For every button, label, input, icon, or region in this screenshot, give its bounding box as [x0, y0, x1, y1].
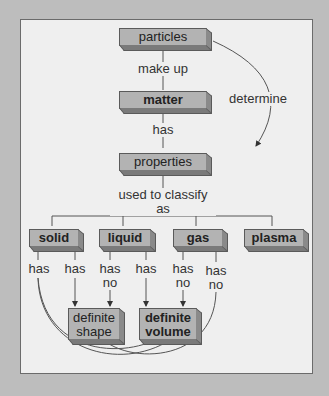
link-gas-has-no-a: hasno: [172, 262, 194, 290]
node-properties: properties: [119, 153, 207, 171]
node-definite-volume: definitevolume: [139, 308, 197, 340]
node-solid: solid: [29, 229, 79, 247]
link-gas-has-no-b-1: has: [206, 263, 227, 278]
link-determine: determine: [228, 92, 288, 106]
link-solid-has-1: has: [28, 262, 50, 276]
node-particles: particles: [119, 28, 207, 46]
node-definite-shape: definiteshape: [68, 308, 120, 340]
link-gas-has-no-a-1: has: [173, 261, 194, 276]
link-make-up: make up: [130, 62, 196, 76]
node-plasma: plasma: [244, 229, 304, 247]
node-definite-volume-line1: definite: [145, 310, 191, 325]
node-matter: matter: [119, 91, 207, 109]
link-liquid-has-no-2: no: [103, 275, 117, 290]
link-liquid-has-no-1: has: [100, 261, 121, 276]
node-definite-shape-line2: shape: [76, 324, 111, 339]
link-gas-has-no-b: hasno: [205, 264, 227, 292]
link-gas-has-no-b-2: no: [209, 277, 223, 292]
node-gas: gas: [173, 229, 223, 247]
link-solid-has-2: has: [64, 262, 86, 276]
link-liquid-has: has: [135, 262, 157, 276]
link-used-to-classify-as: used to classify as: [110, 188, 216, 216]
node-liquid: liquid: [99, 229, 151, 247]
link-has: has: [148, 123, 178, 137]
node-definite-volume-line2: volume: [145, 324, 191, 339]
node-definite-shape-line1: definite: [73, 310, 115, 325]
link-gas-has-no-a-2: no: [176, 275, 190, 290]
link-liquid-has-no: hasno: [99, 262, 121, 290]
